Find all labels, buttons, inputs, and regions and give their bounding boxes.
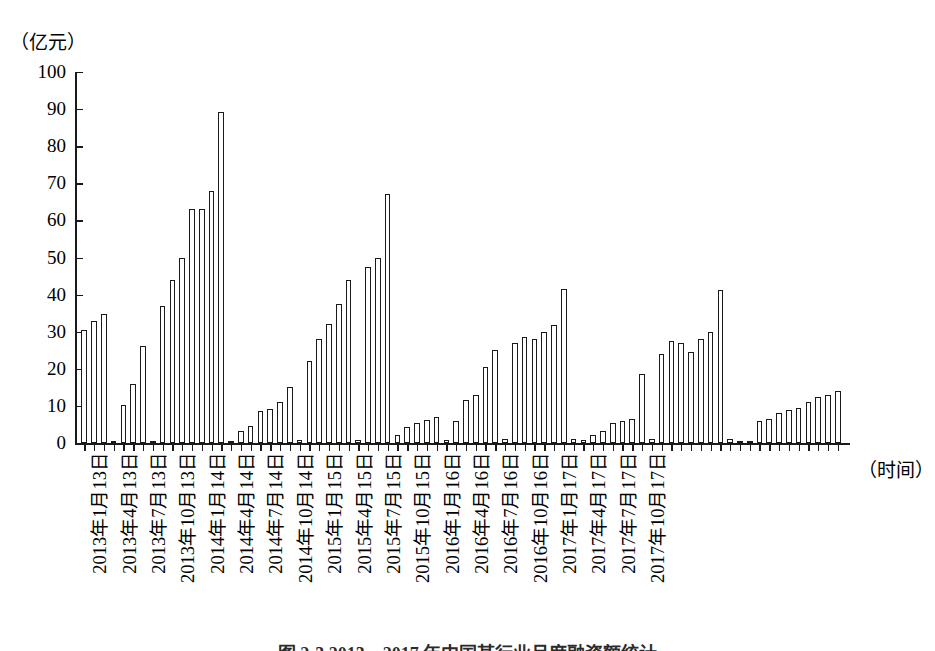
x-axis-tick-mark [583, 444, 584, 451]
bar [248, 426, 254, 443]
bar [463, 400, 469, 443]
bar [346, 280, 352, 443]
bar [189, 209, 195, 443]
x-axis-tick-mark [280, 444, 281, 451]
x-axis-tick-mark [525, 444, 526, 451]
x-axis-tick-mark [622, 444, 623, 451]
bar [258, 411, 264, 443]
x-axis-tick-label: 2014年1月14日 [209, 452, 228, 574]
y-axis-tick-label: 90 [47, 99, 66, 118]
x-axis-tick-label: 2014年7月14日 [267, 452, 286, 574]
bar [414, 423, 420, 443]
bar [160, 306, 166, 443]
x-axis-tick-mark [212, 444, 213, 451]
x-axis-tick-mark [251, 444, 252, 451]
bar [473, 395, 479, 443]
y-axis-tick-label: 20 [47, 359, 66, 378]
x-axis-tick-label: 2016年4月16日 [473, 452, 492, 574]
bar [218, 112, 224, 443]
x-axis-tick-mark [828, 444, 829, 451]
x-axis-tick-mark [241, 444, 242, 451]
bar [600, 431, 606, 443]
bar [91, 321, 97, 443]
bar [121, 405, 127, 443]
bar [81, 330, 87, 443]
bar [786, 410, 792, 443]
x-axis-tick-mark [574, 444, 575, 451]
y-axis-tick-label: 0 [57, 433, 67, 452]
y-axis-tick-label: 30 [47, 322, 66, 341]
bar [267, 409, 273, 443]
x-axis-tick-label: 2016年7月16日 [502, 452, 521, 574]
bar [209, 191, 215, 443]
x-axis-tick-mark [691, 444, 692, 451]
x-axis-tick-mark [319, 444, 320, 451]
bar [659, 354, 665, 443]
bar [424, 420, 430, 443]
x-axis-tick-mark [397, 444, 398, 451]
x-axis-tick-mark [789, 444, 790, 451]
y-axis-tick-label: 40 [47, 285, 66, 304]
bar [404, 427, 410, 443]
x-axis-tick-mark [730, 444, 731, 451]
bar [316, 339, 322, 443]
bar [757, 421, 763, 443]
x-axis-tick-mark [642, 444, 643, 451]
bar [835, 391, 841, 443]
figure-bar-chart: （亿元） 0102030405060708090100 2013年1月13日20… [0, 0, 935, 651]
bar [561, 289, 567, 443]
x-axis-tick-mark [270, 444, 271, 451]
x-axis-tick-mark [300, 444, 301, 451]
x-axis-tick-label: 2013年4月13日 [121, 452, 140, 574]
bar [639, 374, 645, 443]
bar [815, 397, 821, 443]
x-axis-tick-mark [613, 444, 614, 451]
bar [307, 361, 313, 443]
x-axis-tick-mark [133, 444, 134, 451]
x-axis-tick-mark [427, 444, 428, 451]
x-axis-tick-mark [123, 444, 124, 451]
x-axis-tick-label: 2013年7月13日 [150, 452, 169, 574]
bar [385, 194, 391, 443]
bar [375, 258, 381, 444]
bar [287, 387, 293, 443]
x-axis-tick-label: 2016年10月16日 [532, 452, 551, 583]
x-axis-tick-mark [632, 444, 633, 451]
x-axis-tick-mark [701, 444, 702, 451]
bar [453, 421, 459, 443]
bar [130, 384, 136, 443]
plot-area: 0102030405060708090100 [75, 72, 850, 443]
x-axis-tick-mark [202, 444, 203, 451]
bar [179, 258, 185, 444]
x-axis-tick-mark [759, 444, 760, 451]
x-axis-tick-label: 2013年10月13日 [179, 452, 198, 583]
bar [766, 419, 772, 443]
x-axis-tick-mark [417, 444, 418, 451]
x-axis-tick-mark [104, 444, 105, 451]
x-axis-tick-mark [750, 444, 751, 451]
bar [825, 395, 831, 443]
x-axis-tick-mark [368, 444, 369, 451]
x-axis-tick-mark [554, 444, 555, 451]
bar [776, 413, 782, 443]
x-axis-tick-mark [838, 444, 839, 451]
bar [140, 346, 146, 443]
x-axis-tick-mark [94, 444, 95, 451]
bar [796, 408, 802, 443]
x-axis-tick-mark [671, 444, 672, 451]
x-axis-tick-label: 2013年1月13日 [91, 452, 110, 574]
y-axis-tick-label: 10 [47, 396, 66, 415]
bar [806, 402, 812, 443]
x-axis-tick-mark [163, 444, 164, 451]
bar [434, 417, 440, 443]
x-axis-tick-mark [114, 444, 115, 451]
x-axis-tick-mark [720, 444, 721, 451]
x-axis-tick-mark [476, 444, 477, 451]
bar [395, 435, 401, 443]
x-axis-tick-mark [143, 444, 144, 451]
y-axis-tick-label: 50 [47, 248, 66, 267]
x-axis-tick-mark [779, 444, 780, 451]
y-axis-tick-label: 80 [47, 136, 66, 155]
x-axis-tick-mark [231, 444, 232, 451]
x-axis-tick-mark [446, 444, 447, 451]
